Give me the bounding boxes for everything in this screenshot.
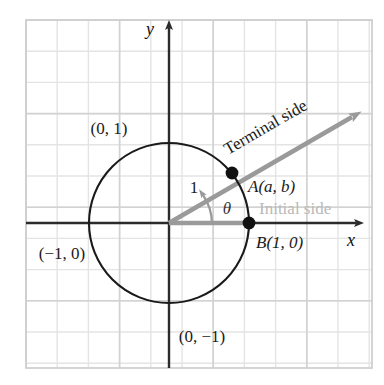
label-point-a: A(a, b) (247, 177, 296, 196)
x-axis-label: x (346, 230, 355, 250)
label-point-b: B(1, 0) (256, 233, 304, 252)
point-a-marker (226, 167, 239, 180)
figure-canvas: y x (0, 1) (−1, 0) (0, −1) 1 θ A(a, b) B… (0, 0, 384, 385)
y-axis-label: y (144, 19, 154, 39)
label-left-point: (−1, 0) (39, 244, 85, 263)
label-bottom-point: (0, −1) (179, 327, 225, 346)
unit-circle-diagram: y x (0, 1) (−1, 0) (0, −1) 1 θ A(a, b) B… (0, 0, 384, 385)
label-theta: θ (223, 199, 231, 218)
point-b-marker (243, 217, 256, 230)
label-initial-side: Initial side (259, 199, 331, 218)
grid-background (26, 20, 372, 368)
label-top-point: (0, 1) (91, 119, 128, 138)
label-radius: 1 (190, 178, 199, 197)
